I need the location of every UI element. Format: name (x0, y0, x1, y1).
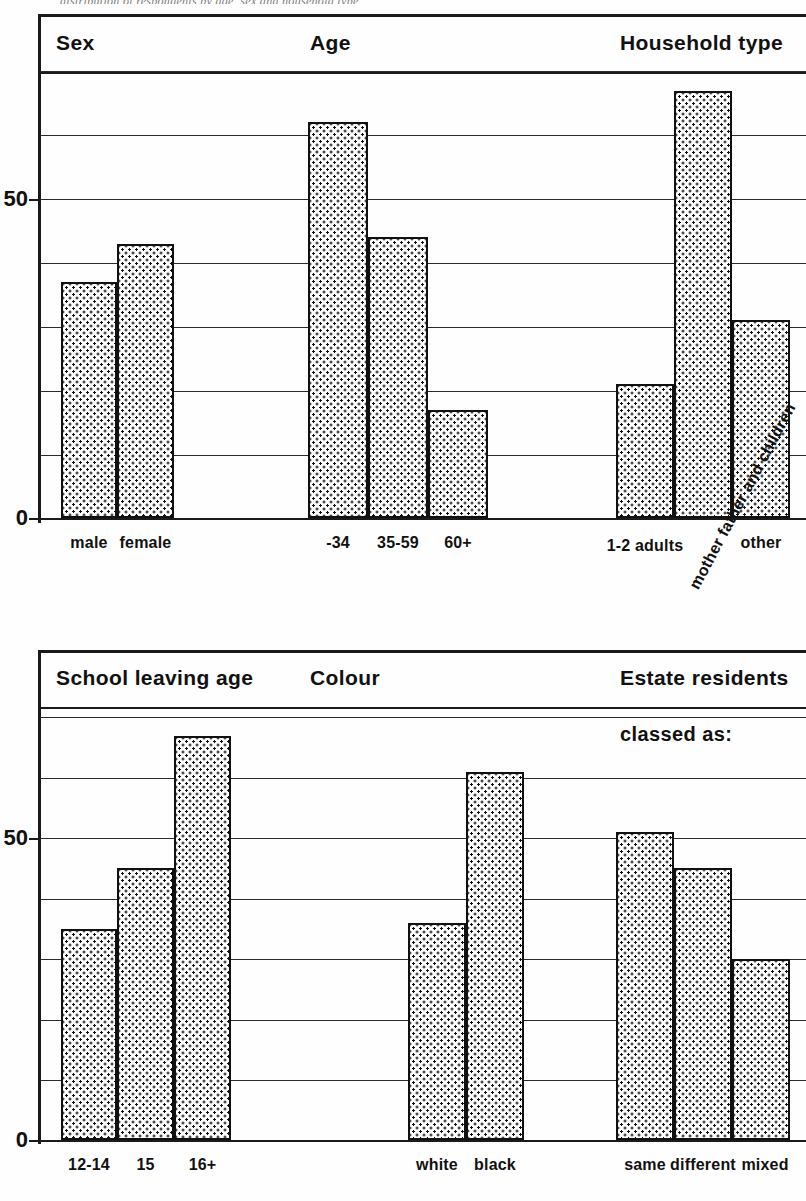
y-tick-b-0 (29, 1140, 38, 1142)
gridline-b-70 (38, 717, 806, 718)
panel-bottom-plot: 50 0 12-14 15 16+ white black same diffe… (38, 650, 806, 1144)
bar-female (117, 244, 174, 518)
bar-household-mother-father-children (674, 91, 732, 518)
y-tick-label-b-0: 0 (10, 1127, 28, 1153)
xtick-colour-white: white (408, 1156, 466, 1174)
y-tick-50 (29, 199, 38, 201)
xtick-estate-same: same (616, 1156, 674, 1174)
xtick-age-35-59: 35-59 (368, 534, 428, 552)
gridline-b-60 (38, 778, 806, 779)
gridline-b-50 (38, 838, 806, 839)
chart-panel-top: Sex Age Household type 50 0 (38, 14, 806, 614)
panel-bottom-x-axis (38, 1140, 806, 1142)
xtick-estate-different: different (668, 1156, 738, 1174)
bar-age-under-34 (308, 122, 368, 518)
bar-school-16-plus (174, 736, 231, 1140)
bar-household-1-2-adults (616, 384, 674, 518)
xtick-household-other: other (732, 534, 790, 552)
xtick-age-60-plus: 60+ (428, 534, 488, 552)
bar-age-35-59 (368, 237, 428, 518)
bar-school-15 (117, 868, 174, 1140)
bar-colour-white (408, 923, 466, 1140)
xtick-household-1-2-adults: 1-2 adults (606, 534, 684, 558)
bar-colour-black (466, 772, 524, 1140)
gridline-70 (38, 71, 806, 72)
chart-panel-bottom: School leaving age Colour Estate residen… (38, 650, 806, 1195)
bar-estate-mixed (732, 959, 790, 1140)
xtick-school-15: 15 (117, 1156, 174, 1174)
xtick-male: male (61, 534, 117, 552)
y-tick-b-50 (29, 838, 38, 840)
xtick-school-16-plus: 16+ (174, 1156, 231, 1174)
xtick-school-12-14: 12-14 (56, 1156, 122, 1174)
bar-school-12-14 (61, 929, 117, 1140)
xtick-estate-mixed: mixed (734, 1156, 796, 1174)
bar-estate-same (616, 832, 674, 1140)
xtick-colour-black: black (466, 1156, 524, 1174)
bar-age-60-plus (428, 410, 488, 518)
figure-sheet: distribution of respondents by age, sex … (0, 0, 806, 1201)
y-tick-label-50: 50 (0, 186, 28, 212)
panel-top-x-axis (38, 518, 806, 520)
xtick-age-under-34: -34 (308, 534, 368, 552)
y-tick-label-b-50: 50 (0, 825, 28, 851)
bar-estate-different (674, 868, 732, 1140)
panel-top-plot: 50 0 male female -34 35-59 60+ 1-2 adult… (38, 14, 806, 523)
y-tick-label-0: 0 (10, 505, 28, 531)
panel-bottom-y-axis (38, 707, 40, 1143)
bar-male (61, 282, 117, 518)
y-tick-0 (29, 518, 38, 520)
panel-top-y-axis (38, 71, 40, 521)
xtick-female: female (117, 534, 174, 552)
figure-caption-sliver: distribution of respondents by age, sex … (60, 0, 760, 4)
